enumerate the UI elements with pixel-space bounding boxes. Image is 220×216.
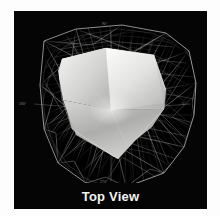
3d-viewport[interactable] [14, 11, 207, 209]
axis-label-180: 180° [19, 103, 26, 107]
view-caption: Top View [82, 190, 139, 203]
axis-label-0: 0° [182, 103, 185, 107]
figure-root: 90° 180° 0° 270° Top View [0, 0, 220, 216]
axis-label-90: 90° [102, 23, 107, 27]
gamut-solid-render [14, 11, 207, 209]
render-panel: 90° 180° 0° 270° Top View [14, 11, 207, 209]
center-specular-highlight [89, 94, 133, 126]
caption-bar: Top View [14, 183, 207, 209]
